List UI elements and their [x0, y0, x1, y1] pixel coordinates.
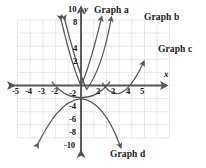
x-tick--2: -2	[51, 86, 58, 96]
y-tick--10: -10	[64, 140, 75, 150]
y-tick-2: 2	[73, 56, 77, 66]
x-axis-label: x	[164, 69, 169, 79]
x-tick-5: 5	[140, 86, 144, 96]
curve-graph-b	[65, 19, 112, 90]
y-tick--8: -8	[69, 127, 76, 137]
y-tick--2: -2	[69, 88, 76, 98]
y-tick--6: -6	[69, 114, 76, 124]
curve-label-graph-b: Graph b	[144, 12, 179, 22]
curve-label-graph-a: Graph a	[94, 5, 129, 15]
y-tick-10: 10	[68, 4, 77, 14]
y-tick-8: 8	[73, 17, 77, 27]
graph-canvas	[0, 0, 206, 168]
y-tick-4: 4	[73, 43, 77, 53]
curve-label-graph-d: Graph d	[110, 149, 145, 159]
curve-label-graph-c: Graph c	[158, 44, 192, 54]
x-tick-2: 2	[96, 86, 100, 96]
y-tick--4: -4	[69, 101, 76, 111]
x-tick--3: -3	[38, 86, 45, 96]
curve-graph-c	[102, 63, 143, 94]
curve-graph-d	[38, 99, 121, 147]
x-tick-4: 4	[126, 86, 130, 96]
x-tick-3: 3	[111, 86, 115, 96]
x-tick--5: -5	[12, 86, 19, 96]
coordinate-graph-figure: x y -5 -4 -3 -2 2 3 4 5 10 8 4 2 -2 -4 -…	[0, 0, 206, 168]
x-tick--4: -4	[25, 86, 32, 96]
y-axis-label: y	[84, 4, 88, 14]
